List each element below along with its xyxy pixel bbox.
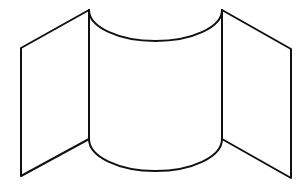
diagram-svg xyxy=(0,0,306,190)
folding-screen-diagram xyxy=(0,0,306,190)
